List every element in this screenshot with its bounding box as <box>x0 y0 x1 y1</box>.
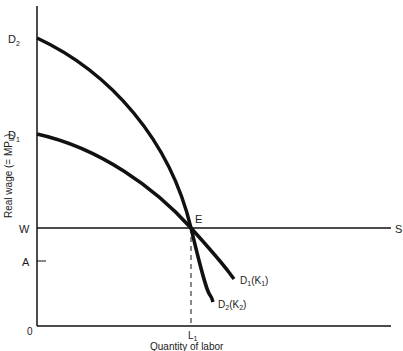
d1k1-curve-label: D1(K1) <box>240 275 268 287</box>
x-axis-title: Quantity of labor <box>150 341 224 351</box>
d2k2-curve-label: D2(K2) <box>218 299 246 311</box>
d2-axis-label: D2 <box>8 33 20 47</box>
e-label: E <box>195 213 202 225</box>
origin-label: 0 <box>27 326 33 337</box>
s-label: S <box>395 223 402 235</box>
w-axis-label: W <box>19 223 30 235</box>
y-axis-title: Real wage (= MPL) <box>3 134 15 218</box>
demand-curve-d1 <box>37 134 234 279</box>
a-axis-label: A <box>22 256 30 268</box>
labor-demand-diagram: D2 D1 W A 0 E S L1 D1(K1) D2(K2) Quantit… <box>0 0 403 351</box>
